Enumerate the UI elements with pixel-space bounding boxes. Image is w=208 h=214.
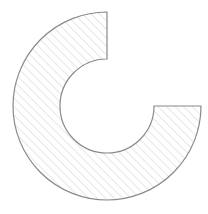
diagram-canvas bbox=[0, 0, 208, 214]
ring-segment-shape bbox=[13, 12, 201, 200]
